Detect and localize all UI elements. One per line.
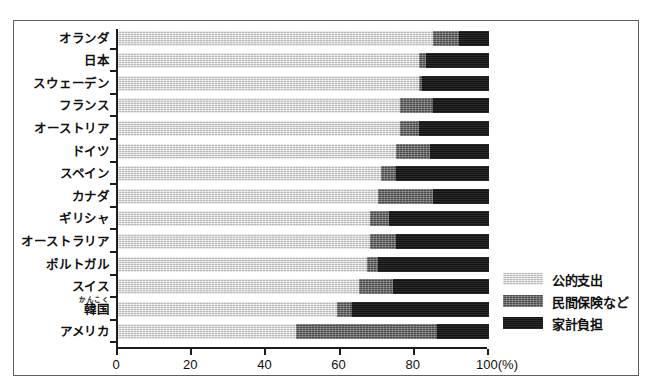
y-axis-tick [110,138,117,140]
bar-segment-household-burden [433,98,489,113]
x-axis-tick-label: 60 [331,357,345,372]
y-axis-label-13: かんこく韓国 [79,297,110,317]
bar-row [118,302,489,317]
bar-segment-private-insurance [433,31,459,46]
bar-row [118,234,489,249]
y-axis-label-7: スペイン [60,168,110,181]
x-axis-line [116,347,487,349]
y-axis-label-14: アメリカ [60,326,110,339]
bar-row [118,76,489,91]
y-axis-label-3: スウェーデン [33,78,110,91]
bar-segment-public-spending [118,324,296,339]
bar-segment-public-spending [118,76,419,91]
y-axis-label-1: オランダ [59,33,110,46]
bar-segment-public-spending [118,257,367,272]
legend-item: 家計負担 [503,312,628,334]
x-axis-tick-label: 20 [183,357,197,372]
bar-segment-private-insurance [381,166,396,181]
legend-label: 家計負担 [552,314,603,333]
bar-segment-household-burden [433,189,489,204]
chart-legend: 公的支出民間保険など家計負担 [503,268,628,334]
bar-segment-public-spending [118,189,378,204]
y-axis-tick [110,228,117,230]
bar-segment-private-insurance [370,211,389,226]
bar-segment-household-burden [419,121,489,136]
bar-row [118,211,489,226]
bar-segment-public-spending [118,166,381,181]
bar-segment-public-spending [118,211,370,226]
bar-row [118,98,489,113]
x-axis-tick-label: 100(%) [476,357,518,372]
legend-item: 公的支出 [503,268,628,290]
bar-segment-household-burden [426,53,489,68]
y-axis-label-11: ポルトガル [46,259,110,272]
y-axis-tick [110,319,117,321]
bar-row [118,31,489,46]
bar-segment-household-burden [389,211,489,226]
y-axis-tick [110,161,117,163]
plot-area: 020406080100(%) [116,29,487,348]
bar-segment-household-burden [396,234,489,249]
bar-row [118,324,489,339]
bar-segment-private-insurance [419,53,426,68]
legend-label: 民間保険など [552,292,628,311]
bar-segment-private-insurance [378,189,434,204]
x-axis-tick [264,349,266,355]
x-axis-tick [116,349,118,355]
y-axis-label-5: オーストリア [34,123,110,136]
bar-row [118,121,489,136]
x-axis-tick-label: 40 [257,357,271,372]
legend-item: 民間保険など [503,290,628,312]
x-axis-tick [190,349,192,355]
bar-segment-private-insurance [396,144,429,159]
bar-segment-public-spending [118,234,370,249]
bar-segment-private-insurance [400,98,433,113]
y-axis-tick [110,251,117,253]
bar-segment-public-spending [118,31,433,46]
bar-segment-household-burden [352,302,489,317]
bar-segment-public-spending [118,279,359,294]
y-axis-label-9: ギリシャ [59,213,110,226]
bar-segment-public-spending [118,53,419,68]
x-axis-tick [487,349,489,355]
bar-segment-household-burden [396,166,489,181]
bar-segment-private-insurance [370,234,396,249]
x-axis-tick-label: 0 [112,357,119,372]
bar-segment-private-insurance [400,121,419,136]
y-axis-label-12: スイス [72,281,110,294]
legend-label: 公的支出 [552,270,603,289]
y-axis-tick [110,48,117,50]
x-axis-tick [339,349,341,355]
bar-segment-household-burden [393,279,489,294]
bar-row [118,279,489,294]
y-axis-tick [110,274,117,276]
public-spending-swatch [503,273,543,285]
chart-figure-frame: オランダ日本スウェーデンフランスオーストリアドイツスペインカナダギリシャオースト… [13,20,639,376]
x-axis-tick [413,349,415,355]
y-axis-tick [110,93,117,95]
private-insurance-swatch [503,295,543,307]
y-axis-tick [110,115,117,117]
bar-row [118,53,489,68]
bar-segment-household-burden [459,31,489,46]
bar-row [118,166,489,181]
bar-segment-private-insurance [359,279,392,294]
bar-segment-public-spending [118,98,400,113]
y-axis-label-text: 韓国 [84,303,110,317]
bar-segment-private-insurance [367,257,378,272]
bar-row [118,189,489,204]
bar-segment-public-spending [118,121,400,136]
x-axis-tick-label: 80 [406,357,420,372]
bar-segment-household-burden [437,324,489,339]
y-axis-label-4: フランス [59,100,110,113]
bar-segment-household-burden [430,144,489,159]
y-axis-tick [110,70,117,72]
y-axis-tick [110,341,117,343]
bar-row [118,257,489,272]
bar-segment-public-spending [118,144,396,159]
y-axis-label-10: オーストラリア [21,236,110,249]
y-axis-label-6: ドイツ [72,146,110,159]
y-axis-label-2: 日本 [84,55,110,68]
y-axis-tick [110,183,117,185]
bar-segment-private-insurance [337,302,352,317]
